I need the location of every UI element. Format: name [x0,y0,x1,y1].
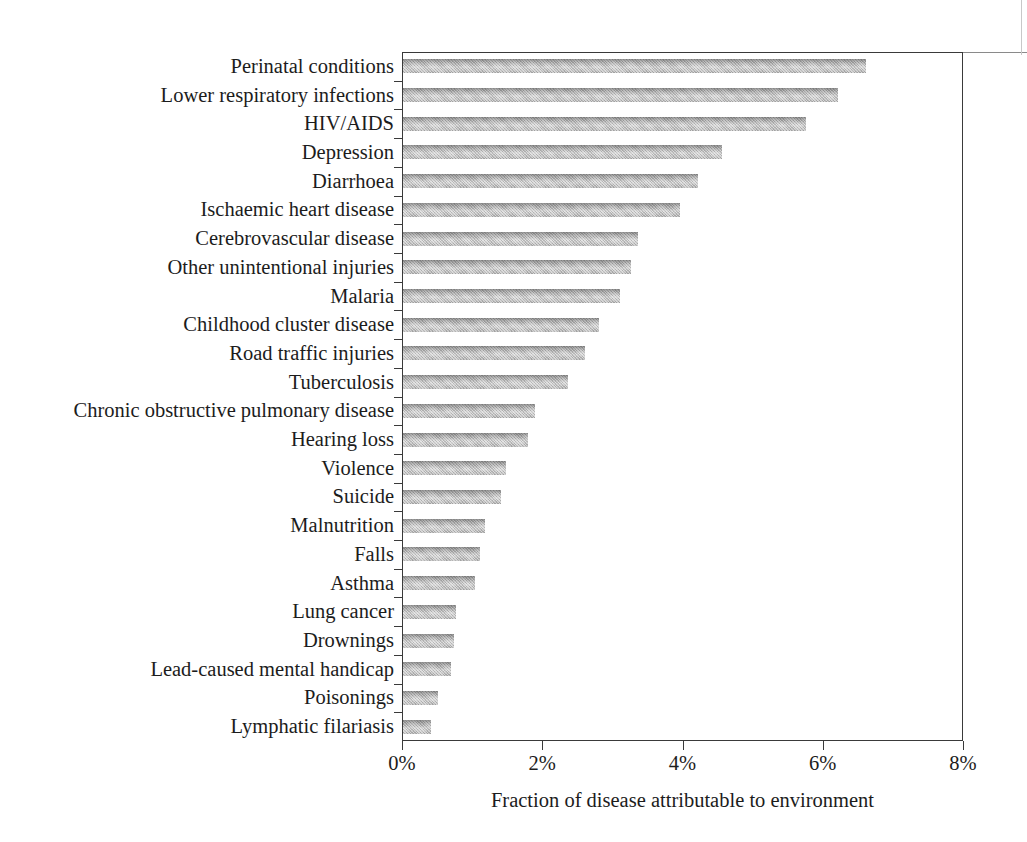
category-axis-tick [394,224,403,225]
x-axis-tick-label: 4% [648,753,718,774]
bar [403,318,599,332]
category-label: Perinatal conditions [0,56,394,77]
category-axis-tick [394,712,403,713]
bar [403,289,620,303]
x-axis-tick [823,741,824,750]
category-label: Chronic obstructive pulmonary disease [0,400,394,421]
bar [403,203,680,217]
category-axis-labels: Perinatal conditionsLower respiratory in… [0,52,394,741]
category-axis-tick [394,569,403,570]
bar [403,519,485,533]
category-axis-tick [394,397,403,398]
bar [403,59,866,73]
category-label: Cerebrovascular disease [0,228,394,249]
bar [403,232,638,246]
category-axis-tick [394,138,403,139]
category-axis-tick [394,684,403,685]
x-axis-tick-label: 6% [788,753,858,774]
category-axis-tick [394,81,403,82]
bar [403,88,838,102]
category-label: Lower respiratory infections [0,85,394,106]
bar [403,375,568,389]
category-axis-tick [394,196,403,197]
category-label: Other unintentional injuries [0,257,394,278]
bar [403,433,528,447]
x-axis-tick-label: 2% [507,753,577,774]
bar [403,117,806,131]
x-axis-tick-label: 0% [367,753,437,774]
category-label: Lymphatic filariasis [0,716,394,737]
category-axis-tick [394,425,403,426]
bar [403,260,631,274]
category-axis-tick [394,540,403,541]
category-axis-tick [394,310,403,311]
x-axis-tick [963,741,964,750]
category-axis-tick [394,597,403,598]
category-label: Hearing loss [0,429,394,450]
x-axis-tick-label: 8% [928,753,998,774]
category-label: Ischaemic heart disease [0,199,394,220]
category-label: Suicide [0,486,394,507]
category-axis-tick [394,655,403,656]
category-label: Malaria [0,286,394,307]
bar [403,691,438,705]
bar [403,576,475,590]
category-label: Childhood cluster disease [0,314,394,335]
category-label: Violence [0,458,394,479]
bar [403,404,535,418]
category-axis-tick [394,167,403,168]
category-label: Drownings [0,630,394,651]
bar [403,605,456,619]
category-label: Road traffic injuries [0,343,394,364]
bar-series [403,53,962,740]
category-axis-tick [394,109,403,110]
bar [403,461,506,475]
x-axis-tick [402,741,403,750]
x-axis-tick [542,741,543,750]
category-label: Diarrhoea [0,171,394,192]
category-axis-tick [394,626,403,627]
bar [403,174,698,188]
category-label: HIV/AIDS [0,113,394,134]
category-label: Asthma [0,573,394,594]
bar [403,490,501,504]
category-label: Lung cancer [0,601,394,622]
category-label: Lead-caused mental handicap [0,659,394,680]
category-label: Malnutrition [0,515,394,536]
horizontal-bar-chart: Perinatal conditionsLower respiratory in… [0,0,1027,842]
category-axis-tick [394,483,403,484]
category-label: Poisonings [0,687,394,708]
bar [403,720,431,734]
category-label: Falls [0,544,394,565]
category-axis-tick [394,282,403,283]
bar [403,346,585,360]
x-axis-tick [683,741,684,750]
category-label: Tuberculosis [0,372,394,393]
x-axis-title: Fraction of disease attributable to envi… [402,790,963,811]
bar [403,662,451,676]
bar [403,634,454,648]
category-axis-tick [394,339,403,340]
category-axis-tick [394,368,403,369]
category-axis-tick [394,511,403,512]
category-axis-tick [394,253,403,254]
bar [403,145,722,159]
category-label: Depression [0,142,394,163]
category-axis-tick [394,454,403,455]
bar [403,547,480,561]
